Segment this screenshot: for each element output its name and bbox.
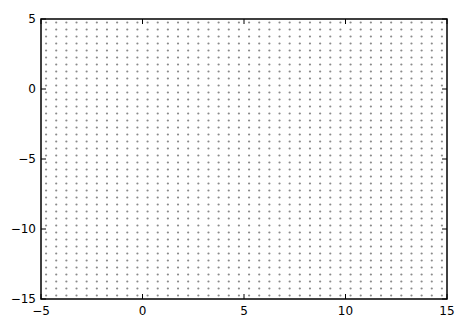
data-point xyxy=(339,119,341,121)
data-point xyxy=(167,70,169,72)
data-point xyxy=(339,238,341,240)
data-point xyxy=(390,147,392,149)
data-point xyxy=(116,224,118,226)
data-point xyxy=(248,70,250,72)
data-point xyxy=(380,42,382,44)
data-point xyxy=(238,231,240,233)
data-point xyxy=(207,147,209,149)
data-point xyxy=(329,35,331,37)
data-point xyxy=(86,77,88,79)
data-point xyxy=(65,84,67,86)
data-point xyxy=(329,266,331,268)
data-point xyxy=(177,98,179,100)
data-point xyxy=(218,161,220,163)
data-point xyxy=(228,28,230,30)
data-point xyxy=(441,294,443,296)
data-point xyxy=(390,105,392,107)
data-point xyxy=(126,84,128,86)
data-point xyxy=(177,266,179,268)
data-point xyxy=(390,287,392,289)
data-point xyxy=(248,168,250,170)
data-point xyxy=(410,280,412,282)
data-point xyxy=(96,35,98,37)
data-point xyxy=(207,217,209,219)
data-point xyxy=(329,63,331,65)
data-point xyxy=(218,182,220,184)
data-point xyxy=(278,98,280,100)
data-point xyxy=(380,84,382,86)
data-point xyxy=(258,126,260,128)
data-point xyxy=(431,238,433,240)
data-point xyxy=(146,105,148,107)
data-point xyxy=(441,119,443,121)
data-point xyxy=(106,273,108,275)
data-point xyxy=(289,189,291,191)
data-point xyxy=(65,273,67,275)
data-point xyxy=(329,210,331,212)
data-point xyxy=(309,175,311,177)
data-point xyxy=(218,294,220,296)
data-point xyxy=(441,210,443,212)
data-point xyxy=(309,154,311,156)
data-point xyxy=(187,259,189,261)
data-point xyxy=(299,28,301,30)
data-point xyxy=(339,56,341,58)
data-point xyxy=(55,245,57,247)
data-point xyxy=(45,140,47,142)
data-point xyxy=(86,266,88,268)
data-point xyxy=(157,56,159,58)
scatter-chart: −5051015 50−5−10−15 xyxy=(0,0,467,330)
data-point xyxy=(410,42,412,44)
data-point xyxy=(400,231,402,233)
data-point xyxy=(370,266,372,268)
data-point xyxy=(86,42,88,44)
data-point xyxy=(299,280,301,282)
data-point xyxy=(441,203,443,205)
data-point xyxy=(349,189,351,191)
data-point xyxy=(86,154,88,156)
data-point xyxy=(197,70,199,72)
data-point xyxy=(400,294,402,296)
data-point xyxy=(106,84,108,86)
data-point xyxy=(177,119,179,121)
data-point xyxy=(329,182,331,184)
data-point xyxy=(421,238,423,240)
data-point xyxy=(96,224,98,226)
data-point xyxy=(55,119,57,121)
data-point xyxy=(268,28,270,30)
data-point xyxy=(218,98,220,100)
data-point xyxy=(136,252,138,254)
data-point xyxy=(136,273,138,275)
data-point xyxy=(349,238,351,240)
data-point xyxy=(390,98,392,100)
data-point xyxy=(441,175,443,177)
x-tick-label: 10 xyxy=(338,304,353,318)
data-point xyxy=(441,84,443,86)
data-point xyxy=(258,161,260,163)
data-point xyxy=(329,28,331,30)
data-point xyxy=(228,266,230,268)
data-point xyxy=(278,196,280,198)
data-point xyxy=(96,231,98,233)
data-point xyxy=(421,259,423,261)
data-point xyxy=(238,63,240,65)
data-point xyxy=(238,154,240,156)
data-point xyxy=(441,140,443,142)
y-tick-label: −10 xyxy=(11,222,36,236)
data-point xyxy=(116,273,118,275)
data-point xyxy=(106,196,108,198)
data-point xyxy=(299,133,301,135)
data-point xyxy=(96,175,98,177)
data-point xyxy=(157,133,159,135)
data-point xyxy=(228,189,230,191)
data-point xyxy=(309,91,311,93)
data-point xyxy=(380,287,382,289)
data-point xyxy=(370,245,372,247)
data-point xyxy=(146,287,148,289)
data-point xyxy=(309,161,311,163)
data-point xyxy=(45,84,47,86)
data-point xyxy=(126,280,128,282)
data-point xyxy=(248,126,250,128)
data-point xyxy=(218,119,220,121)
data-point xyxy=(96,294,98,296)
